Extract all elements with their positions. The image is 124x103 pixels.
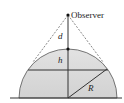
dome-observer-diagram: Observer d h R: [0, 0, 124, 103]
d-label: d: [58, 31, 63, 41]
observer-label: Observer: [71, 10, 104, 20]
R-label: R: [87, 83, 94, 93]
dome-top-point: [66, 47, 69, 50]
observer-point: [66, 13, 69, 16]
h-label: h: [58, 55, 63, 65]
